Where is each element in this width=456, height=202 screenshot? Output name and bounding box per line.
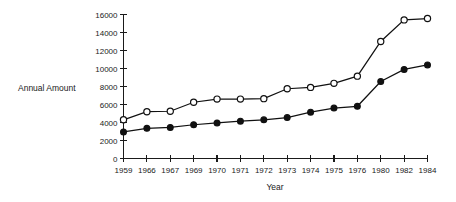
data-point-filled-circle-series-1973 [284,115,290,121]
data-point-open-circle-series-1973 [284,86,290,92]
y-axis-tick-labels: 0200040006000800010000120001400016000 [95,11,118,164]
data-point-open-circle-series-1970 [214,96,220,102]
x-tick-label: 1980 [372,166,390,175]
data-point-filled-circle-series-1967 [167,125,173,131]
x-axis-tick-labels: 1959196619671969197019711972197319741975… [115,166,437,175]
y-tick-label: 2000 [100,137,118,146]
data-point-filled-circle-series-1975 [331,105,337,111]
x-tick-label: 1967 [161,166,179,175]
chart-axes [120,15,428,163]
x-tick-label: 1972 [255,166,273,175]
data-point-open-circle-series-1967 [167,108,173,114]
x-tick-label: 1982 [395,166,413,175]
x-tick-label: 1974 [302,166,320,175]
y-tick-label: 16000 [95,11,118,20]
x-tick-label: 1969 [185,166,203,175]
x-tick-label: 1970 [208,166,226,175]
chart-series-markers [120,15,430,134]
data-point-filled-circle-series-1959 [121,129,127,135]
data-point-open-circle-series-1959 [120,117,126,123]
data-point-filled-circle-series-1966 [144,125,150,131]
x-tick-label: 1973 [278,166,296,175]
y-tick-label: 4000 [100,119,118,128]
x-tick-label: 1959 [115,166,133,175]
data-point-open-circle-series-1969 [191,99,197,105]
y-tick-label: 14000 [95,29,118,38]
data-point-filled-circle-series-1984 [425,62,431,68]
data-point-filled-circle-series-1972 [261,117,267,123]
y-tick-label: 10000 [95,65,118,74]
data-point-filled-circle-series-1969 [191,122,197,128]
data-point-open-circle-series-1984 [424,15,430,21]
data-point-filled-circle-series-1971 [238,118,244,124]
data-point-filled-circle-series-1982 [401,67,407,73]
series-line-open-circle-series [124,19,428,120]
data-point-filled-circle-series-1970 [214,120,220,126]
line-chart: 0200040006000800010000120001400016000 19… [0,0,456,202]
data-point-open-circle-series-1971 [237,96,243,102]
data-point-filled-circle-series-1976 [354,103,360,109]
y-axis-title: Annual Amount [18,83,76,93]
y-tick-label: 12000 [95,47,118,56]
data-point-open-circle-series-1975 [331,80,337,86]
data-point-open-circle-series-1966 [144,109,150,115]
y-tick-label: 6000 [100,101,118,110]
y-tick-label: 8000 [100,83,118,92]
x-tick-label: 1984 [419,166,437,175]
x-axis-title: Year [266,182,283,192]
data-point-open-circle-series-1972 [261,96,267,102]
data-point-open-circle-series-1980 [378,38,384,44]
chart-figure: 0200040006000800010000120001400016000 19… [0,0,456,202]
x-tick-label: 1975 [325,166,343,175]
data-point-open-circle-series-1974 [307,84,313,90]
y-tick-label: 0 [113,155,118,164]
data-point-open-circle-series-1976 [354,73,360,79]
x-tick-label: 1976 [348,166,366,175]
data-point-filled-circle-series-1980 [378,79,384,85]
data-point-open-circle-series-1982 [401,17,407,23]
data-point-filled-circle-series-1974 [308,109,314,115]
x-tick-label: 1971 [232,166,250,175]
series-line-filled-circle-series [124,65,428,132]
x-tick-label: 1966 [138,166,156,175]
chart-series-lines [124,19,428,132]
